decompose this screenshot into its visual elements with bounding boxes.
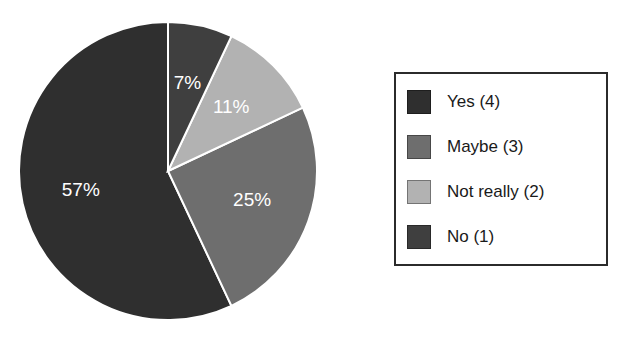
pie-slice-data-label: 57% (62, 179, 100, 200)
pie-slices (19, 22, 317, 320)
legend-swatch-icon (407, 90, 431, 114)
legend-swatch-icon (407, 135, 431, 159)
legend-item-label: Maybe (3) (447, 137, 524, 157)
pie-plot-area: 57%25%11%7% (0, 0, 340, 339)
pie-slice-data-label: 7% (174, 72, 202, 93)
legend-item[interactable]: Yes (4) (407, 79, 606, 124)
legend-item[interactable]: Maybe (3) (407, 124, 606, 169)
legend-item[interactable]: No (1) (407, 214, 606, 259)
legend-swatch-icon (407, 180, 431, 204)
legend-item-label: Not really (2) (447, 182, 544, 202)
legend-swatch-icon (407, 225, 431, 249)
chart-legend: Yes (4) Maybe (3) Not really (2) No (1) (394, 72, 608, 266)
pie-slice-data-label: 25% (233, 189, 271, 210)
legend-item-label: No (1) (447, 227, 494, 247)
legend-item-label: Yes (4) (447, 92, 500, 112)
legend-item[interactable]: Not really (2) (407, 169, 606, 214)
pie-chart-figure: 57%25%11%7% Yes (4) Maybe (3) Not really… (0, 0, 624, 339)
pie-svg: 57%25%11%7% (0, 0, 340, 339)
pie-slice-data-label: 11% (213, 96, 250, 117)
